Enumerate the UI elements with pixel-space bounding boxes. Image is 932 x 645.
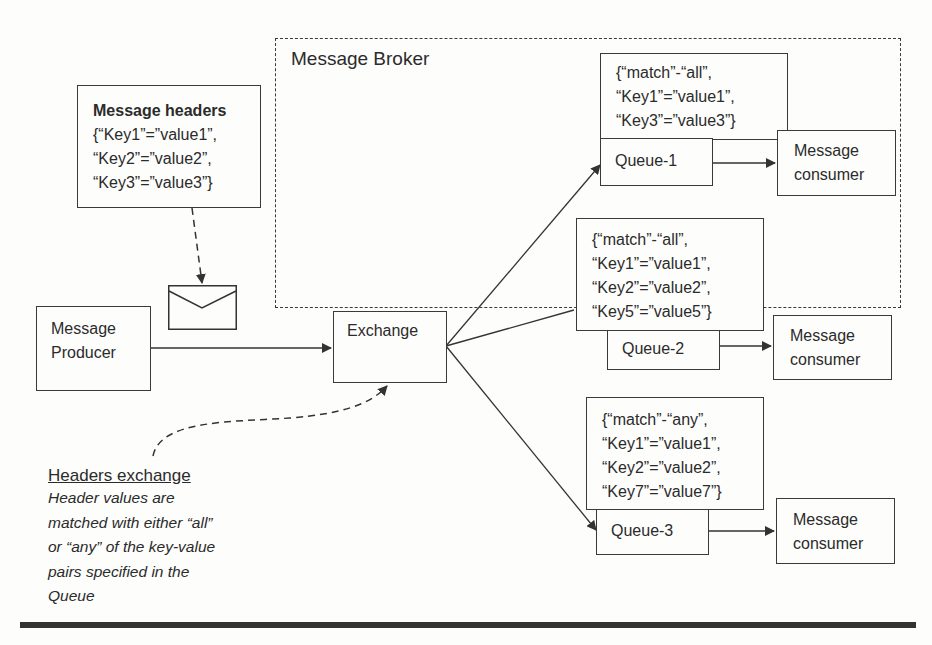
- rule-line: “Key2”=”value2”,: [592, 276, 712, 300]
- queue3-box: Queue-3: [596, 509, 709, 555]
- producer-label-line: Message: [51, 317, 116, 341]
- rule-line: “Key1”=”value1”,: [592, 252, 712, 276]
- queue1-box: Queue-1: [600, 138, 713, 186]
- rule-line: {“match”-“any”,: [602, 408, 722, 432]
- message-headers-box: Message headers {“Key1”=”value1”, “Key2”…: [77, 85, 261, 208]
- exchange-to-queue3-arrow: [446, 346, 596, 530]
- queue1-binding-rules: {“match”-“all”, “Key1”=”value1”, “Key3”=…: [600, 53, 788, 140]
- caption-line: Header values are: [48, 486, 215, 511]
- consumer-label-line: consumer: [794, 163, 864, 187]
- exchange-box: Exchange: [333, 311, 447, 383]
- exchange-label: Exchange: [347, 319, 418, 343]
- caption-to-exchange-arrow: [153, 386, 387, 456]
- consumer3-box: Message consumer: [776, 498, 895, 564]
- envelope-icon: [168, 285, 237, 330]
- rule-line: “Key5”=”value5”}: [592, 300, 712, 324]
- consumer-label-line: consumer: [790, 348, 860, 372]
- queue2-binding-rules: {“match”-“all”, “Key1”=”value1”, “Key2”=…: [576, 218, 764, 331]
- queue2-label: Queue-2: [622, 337, 684, 361]
- bottom-divider: [20, 622, 916, 628]
- consumer-label-line: consumer: [793, 532, 863, 556]
- rule-line: {“match”-“all”,: [592, 228, 712, 252]
- caption-line: Queue: [48, 584, 215, 609]
- headers-to-envelope-arrow: [192, 208, 202, 283]
- caption-line: or “any” of the key-value: [48, 535, 215, 560]
- caption-line: pairs specified in the: [48, 560, 215, 585]
- consumer-label-line: Message: [790, 324, 860, 348]
- header-line: “Key3”=”value3”}: [93, 171, 226, 195]
- consumer-label-line: Message: [794, 139, 864, 163]
- header-line: “Key2”=”value2”,: [93, 147, 226, 171]
- queue3-label: Queue-3: [611, 519, 673, 543]
- producer-label-line: Producer: [51, 341, 116, 365]
- rule-line: “Key2”=”value2”,: [602, 456, 722, 480]
- exchange-to-queue2-arrow: [446, 310, 574, 346]
- queue1-label: Queue-1: [615, 149, 677, 173]
- message-broker-label: Message Broker: [291, 47, 429, 71]
- rule-line: “Key7”=”value7”}: [602, 480, 722, 504]
- headers-exchange-caption: Headers exchange Header values are match…: [48, 466, 215, 609]
- rule-line: “Key1”=”value1”,: [616, 85, 736, 109]
- queue3-binding-rules: {“match”-“any”, “Key1”=”value1”, “Key2”=…: [586, 397, 764, 510]
- rule-line: “Key3”=”value3”}: [616, 109, 736, 133]
- header-line: {“Key1”=”value1”,: [93, 123, 226, 147]
- caption-line: matched with either “all”: [48, 511, 215, 536]
- consumer2-box: Message consumer: [773, 315, 892, 380]
- queue2-box: Queue-2: [607, 330, 720, 370]
- rule-line: “Key1”=”value1”,: [602, 432, 722, 456]
- consumer-label-line: Message: [793, 508, 863, 532]
- caption-title: Headers exchange: [48, 466, 215, 486]
- rule-line: {“match”-“all”,: [616, 61, 736, 85]
- message-producer-box: Message Producer: [36, 306, 151, 391]
- message-headers-title: Message headers: [93, 99, 226, 123]
- consumer1-box: Message consumer: [777, 130, 896, 196]
